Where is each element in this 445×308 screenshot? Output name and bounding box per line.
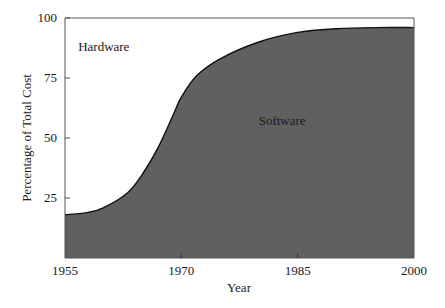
x-tick-label: 1985 [285,263,311,278]
x-tick-label: 2000 [401,263,427,278]
y-tick-label: 75 [44,70,57,85]
software-area [65,28,414,258]
x-tick-label: 1955 [52,263,78,278]
y-tick-label: 50 [44,130,57,145]
x-tick-label: 1970 [168,263,194,278]
annotation-hardware: Hardware [78,39,129,54]
annotation-software: Software [259,113,306,128]
y-tick-label: 100 [38,10,58,25]
x-axis-title: Year [227,280,252,295]
y-axis-title: Percentage of Total Cost [19,74,34,202]
y-tick-label: 25 [44,190,57,205]
area-layer [65,28,414,258]
chart: 2550751001955197019852000 Year Percentag… [0,0,445,308]
